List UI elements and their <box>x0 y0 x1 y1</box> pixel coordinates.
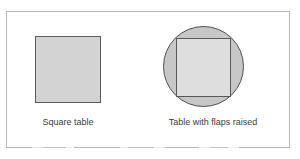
square-table-figure <box>35 36 101 103</box>
flaps-table-figure <box>163 26 244 107</box>
outer-border-bottom-left-cap <box>6 140 7 148</box>
outer-border-bottom-rule <box>6 147 290 148</box>
outer-border-bottom-right-cap <box>289 140 290 148</box>
flaps-inner-square-shape <box>176 38 231 97</box>
square-table-caption: Square table <box>0 117 136 128</box>
flaps-table-caption: Table with flaps raised <box>136 117 290 128</box>
figure-canvas: Square table Table with flaps raised <box>0 0 300 159</box>
square-table-shape <box>35 36 101 103</box>
